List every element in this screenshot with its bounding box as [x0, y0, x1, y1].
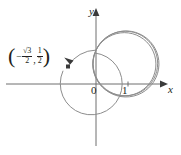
- x-numerator: √3: [22, 47, 32, 55]
- close-paren: ): [43, 47, 50, 66]
- x-axis-arrowhead: [160, 81, 168, 88]
- origin-label: 0: [91, 85, 97, 96]
- x-coordinate-fraction: √3 2: [22, 47, 32, 65]
- direction-arrowhead: [64, 57, 73, 64]
- open-paren: (: [8, 47, 15, 66]
- x-denominator: 2: [22, 56, 32, 65]
- x-tick-label-one: 1: [122, 85, 128, 96]
- x-axis-label: x: [168, 84, 173, 95]
- unit-circle-spiral: [60, 31, 159, 115]
- unit-circle-figure: y x 0 1 ( − √3 2 , 1 2 ): [0, 0, 181, 155]
- coordinate-comma: ,: [32, 54, 37, 65]
- terminal-point-marker: [66, 65, 70, 69]
- figure-canvas: [0, 0, 181, 155]
- minus-sign: −: [15, 51, 22, 62]
- terminal-point-label: ( − √3 2 , 1 2 ): [8, 47, 50, 66]
- y-axis-label: y: [89, 6, 94, 17]
